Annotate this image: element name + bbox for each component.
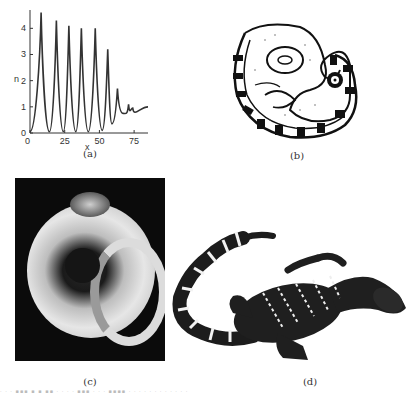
panel-a-plot: 01234 0255075 n x (a) [0, 0, 180, 160]
y-axis-label: n [14, 74, 19, 84]
x-tick-label: 25 [60, 136, 70, 146]
truncated-caption-strip: · · · ▪▪▪ ▪ ▪ ▪▪ · · · · ▪▪▪ · · · ▪▪▪▪ … [0, 388, 420, 396]
y-tick-label: 2 [21, 76, 26, 86]
x-tick-label: 75 [129, 136, 139, 146]
caption-a: (a) [75, 148, 105, 159]
data-curve [30, 13, 148, 132]
caption-d: (d) [295, 376, 325, 387]
panel-c-photo: (c) [15, 178, 165, 388]
line-chart: 01234 0255075 n x [0, 0, 180, 150]
y-tick-label: 3 [21, 49, 26, 59]
lizard-illustration [168, 218, 418, 368]
y-tick-label: 1 [21, 102, 26, 112]
caption-b: (b) [282, 150, 312, 161]
panel-b-drawing: (b) [225, 15, 375, 165]
x-tick-label: 50 [94, 136, 104, 146]
embryo-photo [15, 178, 165, 361]
caption-c: (c) [75, 376, 105, 387]
x-tick-label: 0 [25, 136, 30, 146]
panel-d-illustration: (d) [168, 218, 418, 388]
y-tick-label: 4 [21, 23, 26, 33]
embryo-drawing [225, 15, 375, 145]
